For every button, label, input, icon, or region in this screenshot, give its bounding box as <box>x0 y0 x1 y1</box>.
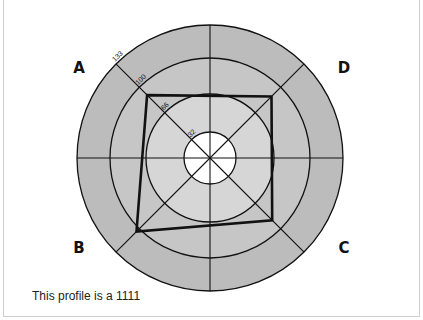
radar-chart: 3266100133 <box>0 0 423 320</box>
spoke-lines <box>77 25 343 291</box>
quadrant-label-d: D <box>338 59 350 77</box>
quadrant-label-a: A <box>73 59 85 77</box>
quadrant-label-c: C <box>338 239 349 257</box>
quadrant-label-b: B <box>73 239 84 257</box>
profile-caption: This profile is a 1111 <box>32 289 140 303</box>
